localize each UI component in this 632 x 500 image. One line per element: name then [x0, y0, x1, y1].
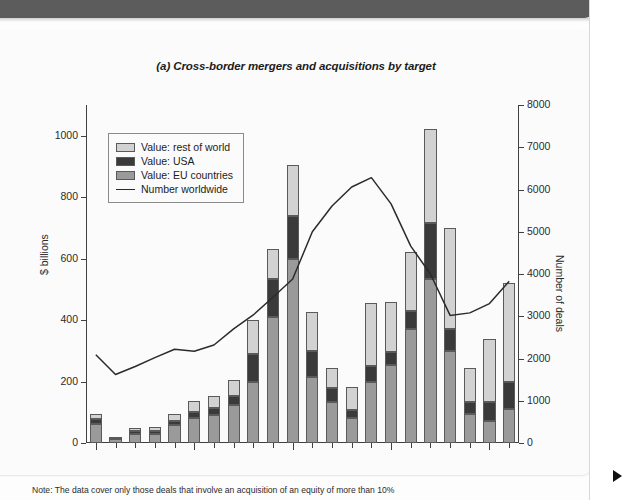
bar-segment — [503, 283, 515, 381]
y-tick-label-right: 7000 — [527, 140, 550, 152]
bar-segment — [90, 424, 102, 443]
x-tick-minor — [253, 443, 254, 448]
bar-segment — [168, 425, 180, 443]
bar-segment — [424, 129, 436, 223]
y-tick-left — [81, 259, 86, 260]
y-tick-label-left: 1000 — [55, 129, 78, 141]
bar-segment — [346, 418, 358, 443]
figure-title: (a) Cross-border mergers and acquisition… — [0, 60, 592, 72]
bar-segment — [168, 421, 180, 425]
bar-segment — [365, 382, 377, 443]
bar-segment — [247, 382, 259, 443]
y-tick-label-left: 200 — [60, 375, 78, 387]
y-tick-right — [519, 274, 524, 275]
bar-segment — [444, 329, 456, 351]
legend-swatch-eu-countries — [116, 171, 135, 180]
x-tick-major — [293, 443, 294, 450]
bar-segment — [385, 365, 397, 443]
bar-segment — [188, 412, 200, 418]
x-tick-minor — [450, 443, 451, 448]
x-tick-minor — [332, 443, 333, 448]
bar-segment — [188, 418, 200, 443]
bar-segment — [444, 351, 456, 443]
bar-segment — [228, 396, 240, 405]
next-page-arrow-icon[interactable] — [613, 470, 622, 482]
legend-swatch-usa — [116, 157, 135, 166]
bar-segment — [483, 421, 495, 443]
bar-segment — [267, 249, 279, 278]
bar-segment — [129, 431, 141, 433]
legend-label-usa: Value: USA — [141, 155, 195, 167]
y-tick-right — [519, 190, 524, 191]
figure-card: (a) Cross-border mergers and acquisition… — [0, 30, 592, 475]
bar-segment — [326, 388, 338, 402]
bar-segment — [405, 311, 417, 329]
bar-segment — [464, 368, 476, 402]
bar-segment — [385, 302, 397, 353]
y-tick-right — [519, 147, 524, 148]
y-tick-left — [81, 136, 86, 137]
x-tick-minor — [175, 443, 176, 448]
bar-segment — [483, 339, 495, 402]
legend-item[interactable]: Value: EU countries — [116, 168, 233, 182]
x-tick-minor — [155, 443, 156, 448]
bar-segment — [228, 380, 240, 396]
x-tick-minor — [411, 443, 412, 448]
bar-segment — [267, 279, 279, 317]
bar-segment — [208, 408, 220, 415]
bar-segment — [385, 352, 397, 364]
bar-segment — [306, 351, 318, 377]
bar-segment — [483, 402, 495, 422]
y-tick-label-right: 8000 — [527, 98, 550, 110]
bar-segment — [168, 414, 180, 421]
bar-segment — [326, 402, 338, 443]
legend-item[interactable]: Number worldwide — [116, 182, 233, 196]
x-tick-minor — [273, 443, 274, 448]
y-tick-left — [81, 320, 86, 321]
bar-segment — [287, 259, 299, 443]
bar-segment — [247, 320, 259, 354]
bar-segment — [346, 387, 358, 410]
bar-segment — [208, 415, 220, 443]
bar-segment — [247, 354, 259, 382]
y-tick-label-right: 3000 — [527, 309, 550, 321]
y-tick-label-right: 2000 — [527, 352, 550, 364]
x-tick-minor — [116, 443, 117, 448]
y-tick-right — [519, 316, 524, 317]
bar-segment — [306, 377, 318, 443]
bar-segment — [90, 414, 102, 419]
x-tick-minor — [312, 443, 313, 448]
page-header-band — [0, 0, 594, 18]
x-tick-minor — [509, 443, 510, 448]
y-tick-label-right: 0 — [527, 436, 533, 448]
y-tick-left — [81, 443, 86, 444]
x-tick-minor — [430, 443, 431, 448]
x-tick-major — [194, 443, 195, 450]
bar-segment — [424, 279, 436, 443]
y-tick-right — [519, 443, 524, 444]
bar-segment — [149, 427, 161, 432]
bar-segment — [405, 329, 417, 443]
legend-item[interactable]: Value: rest of world — [116, 140, 233, 154]
bar-segment — [149, 431, 161, 434]
bar-segment — [365, 303, 377, 366]
y-tick-label-right: 4000 — [527, 267, 550, 279]
bar-segment — [129, 434, 141, 443]
bar-segment — [464, 414, 476, 443]
bar-segment — [326, 368, 338, 388]
y-tick-left — [81, 382, 86, 383]
y-tick-label-left: 400 — [60, 313, 78, 325]
bar-segment — [424, 223, 436, 278]
legend-item[interactable]: Value: USA — [116, 154, 233, 168]
x-tick-major — [391, 443, 392, 450]
page-header-shadow — [0, 18, 594, 22]
bar-segment — [464, 402, 476, 414]
legend-swatch-rest-of-world — [116, 143, 135, 152]
y-tick-label-right: 6000 — [527, 183, 550, 195]
bar-segment — [267, 317, 279, 443]
y-axis-right-title: Number of deals — [554, 255, 566, 332]
y-tick-label-left: 600 — [60, 252, 78, 264]
y-tick-label-left: 0 — [72, 436, 78, 448]
bar-segment — [503, 382, 515, 410]
page-root: (a) Cross-border mergers and acquisition… — [0, 0, 632, 500]
